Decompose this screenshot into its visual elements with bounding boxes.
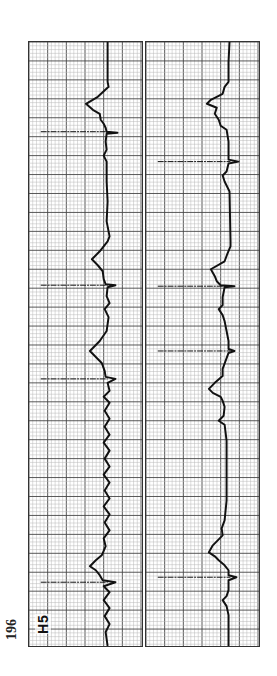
ecg-strip-left (28, 41, 143, 647)
page-number: 196 (4, 619, 20, 640)
ecg-trace (207, 42, 238, 646)
ecg-grid-and-trace-right (146, 42, 259, 646)
ecg-strip-right (145, 41, 260, 647)
ecg-grid-and-trace-left (29, 42, 142, 646)
lead-label: H5 (35, 614, 51, 634)
ecg-trace (86, 42, 117, 646)
